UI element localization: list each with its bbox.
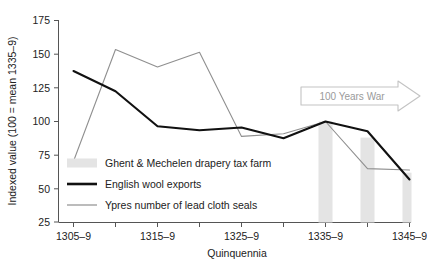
bar-1340-44 [361,138,375,223]
y-tick-label-50: 50 [38,183,50,195]
x-tick-label-1315: 1315–9 [140,230,175,242]
y-tick-label-125: 125 [32,82,50,94]
chart-container: 175 150 125 100 75 50 25 Indexed value (… [0,0,427,265]
bar-1335-9 [319,122,333,223]
y-tick-label-150: 150 [32,48,50,60]
hundred-years-war-annotation: 100 Years War [301,81,420,111]
legend-label-english-wool: English wool exports [105,178,201,190]
y-tick-label-175: 175 [32,14,50,26]
legend-swatch-bar-icon [67,159,97,168]
hundred-years-war-label: 100 Years War [319,91,385,102]
series-ghent-mechelen-bars [319,122,412,223]
legend-label-ghent-mechelen: Ghent & Mechelen drapery tax farm [105,157,272,169]
chart-svg: 175 150 125 100 75 50 25 Indexed value (… [0,0,427,265]
y-tick-label-75: 75 [38,149,50,161]
legend-label-ypres: Ypres number of lead cloth seals [105,199,257,211]
y-tick-label-25: 25 [38,216,50,228]
x-tick-label-1335: 1335–9 [308,230,343,242]
x-tick-label-1305: 1305–9 [56,230,91,242]
y-tick-label-100: 100 [32,115,50,127]
x-tick-label-1325: 1325–9 [224,230,259,242]
x-tick-label-1345: 1345–9 [392,230,427,242]
y-axis-title: Indexed value (100 = mean 1335–9) [6,37,18,206]
x-axis-title: Quinquennia [207,247,267,259]
x-axis: 1305–9 1315–9 1325–9 1335–9 1345–9 Quinq… [56,223,427,260]
chart-legend: Ghent & Mechelen drapery tax farm Englis… [67,157,272,211]
series-ypres-line [74,50,410,171]
y-axis: 175 150 125 100 75 50 25 Indexed value (… [6,14,59,228]
